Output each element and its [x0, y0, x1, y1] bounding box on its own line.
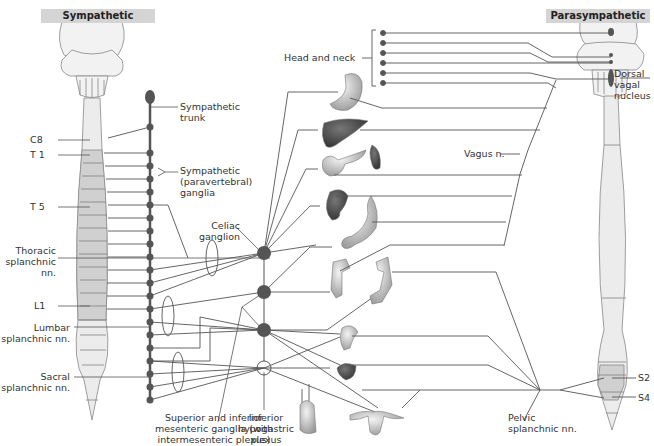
autonomic-nervous-system-diagram	[0, 0, 654, 446]
label-pelvic-splanchnic: Pelvic splanchnic nn.	[508, 412, 577, 434]
bladder-icon	[337, 363, 356, 380]
male-genitalia-icon	[300, 401, 316, 434]
label-vagus-nerve: Vagus n.	[464, 148, 505, 159]
cranial-parasympathetic	[362, 30, 611, 88]
label-dorsal-vagal-nucleus: Dorsal vagal nucleus	[614, 68, 651, 101]
organs	[300, 74, 404, 435]
label-c8: C8	[30, 134, 43, 145]
small-intestine-icon	[342, 196, 378, 249]
label-sacral-splanchnic: Sacral splanchnic nn.	[0, 371, 70, 393]
pancreas-icon	[322, 150, 366, 176]
vagus-nerve	[334, 80, 556, 271]
kidney-icon	[326, 190, 348, 220]
label-s4: S4	[638, 392, 650, 403]
ascending-colon-icon	[331, 259, 350, 298]
liver-icon	[322, 119, 368, 147]
label-sympathetic-trunk: Sympathetic trunk	[180, 101, 240, 123]
spleen-icon	[370, 145, 380, 169]
label-celiac-ganglion: Celiac ganglion	[196, 220, 240, 242]
label-s2: S2	[638, 372, 650, 383]
sympathetic-header: Sympathetic	[41, 9, 155, 23]
label-head-and-neck: Head and neck	[284, 52, 355, 63]
label-l1: L1	[34, 300, 45, 311]
prevertebral-ganglia	[257, 246, 271, 375]
label-inferior-hypogastric-plexus: Inferior hypogastric plexus	[236, 412, 296, 445]
label-t1: T 1	[30, 149, 45, 160]
female-genitalia-icon	[350, 411, 404, 435]
descending-colon-icon	[370, 257, 392, 304]
label-t5: T 5	[30, 201, 45, 212]
rectum-icon	[340, 326, 358, 350]
sympathetic-trunk	[145, 90, 155, 404]
label-thoracic-splanchnic: Thoracic splanchnic nn.	[0, 245, 56, 278]
left-brainstem	[59, 22, 124, 98]
communicating-rami	[104, 127, 150, 309]
label-paravertebral-ganglia: Sympathetic (paravertebral) ganglia	[180, 165, 252, 198]
left-spinal-cord	[76, 98, 108, 420]
parasympathetic-header: Parasympathetic	[546, 9, 650, 23]
label-lumbar-splanchnic: Lumbar splanchnic nn.	[0, 322, 70, 344]
